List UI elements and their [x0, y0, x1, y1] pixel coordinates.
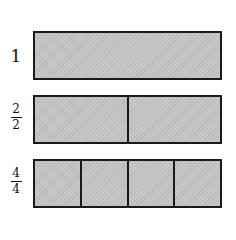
row-halves: 2 2	[0, 95, 236, 145]
strip-part	[80, 161, 127, 206]
strip-part	[127, 97, 221, 142]
denominator: 4	[12, 183, 20, 196]
strip-part	[35, 97, 127, 142]
denominator: 2	[12, 119, 20, 132]
numerator: 2	[12, 103, 20, 116]
row-whole: 1	[0, 31, 236, 81]
strip-part	[127, 161, 174, 206]
strip-quarters	[33, 159, 222, 208]
label-fraction-quarters: 4 4	[10, 167, 22, 196]
strip-halves	[33, 95, 222, 144]
strip-part	[173, 161, 220, 206]
label-whole: 1	[8, 48, 24, 65]
strip-whole	[33, 31, 222, 80]
strip-part	[35, 33, 220, 78]
strip-part	[35, 161, 80, 206]
row-quarters: 4 4	[0, 159, 236, 209]
numerator: 4	[12, 167, 20, 180]
label-fraction-halves: 2 2	[10, 103, 22, 132]
